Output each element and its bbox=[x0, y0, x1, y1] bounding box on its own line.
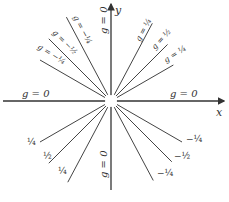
label-neg-y: g = 0 bbox=[98, 150, 109, 178]
label-ul-1: g = −¼ bbox=[71, 14, 94, 46]
isocline-ray-lr-3 bbox=[114, 107, 153, 180]
label-lr-1: −¼ bbox=[186, 134, 203, 144]
label-lr-3: −¼ bbox=[157, 168, 174, 178]
y-axis-label: y bbox=[114, 4, 122, 17]
label-neg-x: g = 0 bbox=[22, 88, 50, 99]
isocline-ray-lr-2 bbox=[116, 106, 172, 162]
label-pos-x: g = 0 bbox=[170, 88, 198, 99]
label-pos-y: g = 0 bbox=[98, 6, 109, 34]
x-axis-label: x bbox=[216, 106, 223, 119]
label-ll-2: ½ bbox=[43, 151, 52, 161]
isocline-ray-ul-3 bbox=[40, 60, 105, 98]
label-ur-3: g = ¼ bbox=[162, 44, 188, 65]
label-ur-1: g = ¼ bbox=[134, 17, 154, 43]
isocline-ray-ll-1 bbox=[40, 105, 105, 143]
label-lr-2: −½ bbox=[174, 151, 191, 161]
isocline-ray-ur-1 bbox=[114, 23, 152, 95]
label-ur-2: g = ½ bbox=[150, 27, 173, 51]
label-ll-3: ¼ bbox=[58, 166, 67, 176]
label-ll-1: ¼ bbox=[27, 137, 36, 147]
isocline-ray-lr-1 bbox=[117, 105, 182, 143]
isocline-diagram: x y g = 0 g = 0 g = 0 g = 0 g = ¼ g = ½ … bbox=[0, 0, 229, 202]
origin-gap bbox=[105, 95, 117, 107]
isocline-ray-ur-2 bbox=[116, 44, 168, 96]
isocline-ray-ur-3 bbox=[117, 65, 173, 98]
